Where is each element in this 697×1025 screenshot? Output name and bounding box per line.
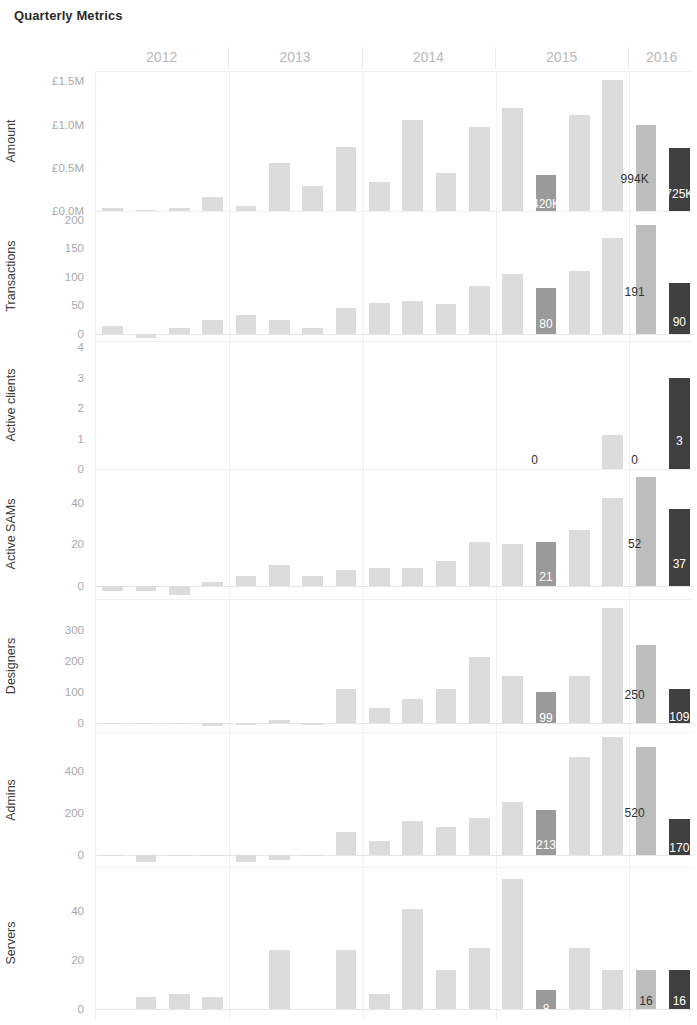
bar[interactable] bbox=[602, 80, 623, 211]
bar[interactable] bbox=[236, 723, 257, 725]
y-tick-label: 20 bbox=[71, 538, 84, 550]
bar[interactable] bbox=[302, 723, 323, 725]
bar[interactable] bbox=[569, 676, 590, 722]
year-gridline bbox=[363, 732, 364, 867]
bar[interactable] bbox=[636, 747, 657, 855]
bar[interactable] bbox=[202, 997, 223, 1009]
bar[interactable] bbox=[436, 970, 457, 1009]
bar[interactable] bbox=[236, 315, 257, 334]
bar[interactable] bbox=[402, 120, 423, 211]
bar[interactable] bbox=[169, 586, 190, 594]
bar[interactable] bbox=[469, 657, 490, 723]
bar[interactable] bbox=[302, 855, 323, 857]
year-gridline bbox=[229, 732, 230, 867]
bar[interactable] bbox=[569, 530, 590, 587]
bar[interactable] bbox=[469, 127, 490, 211]
bar[interactable] bbox=[502, 676, 523, 723]
bar[interactable] bbox=[102, 855, 123, 857]
bar[interactable] bbox=[636, 225, 657, 334]
bar[interactable] bbox=[336, 308, 357, 334]
bar[interactable] bbox=[469, 818, 490, 855]
bar[interactable] bbox=[102, 326, 123, 334]
bar[interactable] bbox=[169, 723, 190, 725]
bar[interactable] bbox=[269, 320, 290, 334]
bar[interactable] bbox=[136, 997, 157, 1009]
bar[interactable] bbox=[402, 301, 423, 334]
bar[interactable] bbox=[502, 274, 523, 334]
bar[interactable] bbox=[436, 689, 457, 723]
bar[interactable] bbox=[236, 855, 257, 862]
bar[interactable] bbox=[336, 689, 357, 722]
bar[interactable] bbox=[402, 909, 423, 1010]
bar[interactable] bbox=[602, 498, 623, 586]
year-gridline bbox=[363, 599, 364, 732]
bar[interactable] bbox=[602, 238, 623, 334]
bar[interactable] bbox=[269, 565, 290, 586]
bar[interactable] bbox=[169, 994, 190, 1009]
bar[interactable] bbox=[302, 576, 323, 586]
bar[interactable] bbox=[236, 576, 257, 586]
panel-transactions: Transactions0501001502008019190 bbox=[0, 211, 695, 341]
bar[interactable] bbox=[202, 582, 223, 586]
bar[interactable] bbox=[469, 286, 490, 334]
bar[interactable] bbox=[136, 586, 157, 590]
bar[interactable] bbox=[202, 320, 223, 334]
bar[interactable] bbox=[436, 827, 457, 855]
bar[interactable] bbox=[469, 542, 490, 586]
bar[interactable] bbox=[436, 173, 457, 211]
bar[interactable] bbox=[402, 821, 423, 854]
bar[interactable] bbox=[669, 378, 690, 469]
bar[interactable] bbox=[202, 855, 223, 857]
bar[interactable] bbox=[469, 948, 490, 1009]
bar[interactable] bbox=[102, 723, 123, 725]
bar[interactable] bbox=[336, 147, 357, 211]
bar[interactable] bbox=[369, 303, 390, 334]
bar[interactable] bbox=[369, 182, 390, 211]
bar[interactable] bbox=[369, 708, 390, 722]
bar[interactable] bbox=[369, 568, 390, 587]
bar[interactable] bbox=[336, 832, 357, 855]
bar[interactable] bbox=[602, 970, 623, 1009]
bar[interactable] bbox=[336, 570, 357, 587]
bar[interactable] bbox=[602, 435, 623, 469]
bar[interactable] bbox=[636, 477, 657, 586]
bar[interactable] bbox=[602, 737, 623, 854]
bar[interactable] bbox=[402, 568, 423, 587]
bar[interactable] bbox=[302, 186, 323, 211]
bar[interactable] bbox=[369, 994, 390, 1009]
bar[interactable] bbox=[569, 948, 590, 1009]
bar[interactable] bbox=[502, 879, 523, 1009]
bar[interactable] bbox=[169, 328, 190, 334]
bar[interactable] bbox=[436, 304, 457, 334]
bar[interactable] bbox=[136, 723, 157, 725]
bar[interactable] bbox=[569, 115, 590, 211]
bar[interactable] bbox=[136, 334, 157, 338]
bar[interactable] bbox=[169, 855, 190, 857]
bar[interactable] bbox=[636, 645, 657, 722]
bar[interactable] bbox=[269, 855, 290, 860]
panel-active_clients: Active clients01234003 bbox=[0, 341, 695, 469]
bar[interactable] bbox=[602, 608, 623, 722]
bar[interactable] bbox=[669, 509, 690, 587]
bar[interactable] bbox=[269, 163, 290, 211]
bar[interactable] bbox=[102, 586, 123, 590]
bar[interactable] bbox=[569, 757, 590, 855]
bar-value-label: 0 bbox=[631, 453, 638, 467]
bar[interactable] bbox=[502, 802, 523, 855]
bar[interactable] bbox=[569, 271, 590, 335]
axis-title-active_sams: Active SAMs bbox=[0, 469, 22, 599]
bar[interactable] bbox=[202, 723, 223, 727]
bar[interactable] bbox=[202, 197, 223, 211]
bar[interactable] bbox=[436, 561, 457, 586]
bar[interactable] bbox=[336, 950, 357, 1009]
bar[interactable] bbox=[636, 125, 657, 211]
bar[interactable] bbox=[302, 328, 323, 334]
bar[interactable] bbox=[136, 855, 157, 863]
bar[interactable] bbox=[269, 950, 290, 1009]
bar[interactable] bbox=[669, 148, 690, 211]
bar[interactable] bbox=[502, 108, 523, 211]
bar[interactable] bbox=[402, 699, 423, 723]
bar[interactable] bbox=[502, 544, 523, 586]
bar[interactable] bbox=[269, 720, 290, 722]
bar[interactable] bbox=[369, 841, 390, 855]
